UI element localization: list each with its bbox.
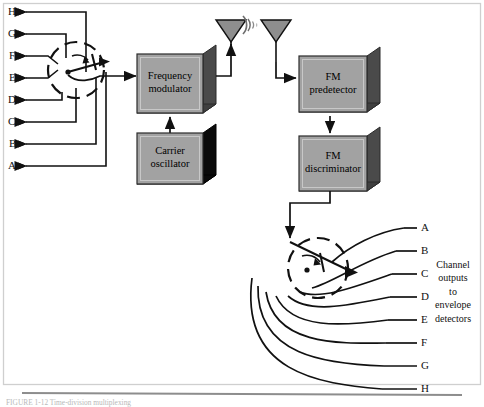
modulator-to-antenna-line: [216, 44, 231, 76]
output-stubs: [382, 228, 417, 389]
channel-note-line-2: outputs: [424, 271, 482, 284]
input-label-g: G: [8, 28, 16, 39]
fm-predetector-line1: FM: [299, 71, 367, 84]
input-label-f: F: [9, 50, 15, 61]
transmit-commutator-switch: [48, 42, 136, 98]
output-label-g: G: [421, 360, 429, 371]
channel-outputs-note: Channel outputs to envelope detectors: [424, 258, 482, 325]
channel-note-line-1: Channel: [424, 258, 482, 271]
caption-rule: [22, 393, 462, 395]
input-label-e: E: [9, 72, 16, 83]
fm-discriminator-line1: FM: [299, 150, 367, 163]
carrier-oscillator-line1: Carrier: [137, 145, 203, 158]
carrier-oscillator-line2: oscillator: [137, 158, 203, 171]
channel-note-line-5: detectors: [424, 312, 482, 325]
diagram-canvas: [0, 0, 484, 407]
channel-note-line-4: envelope: [424, 298, 482, 311]
frequency-modulator-line1: Frequency: [137, 70, 203, 83]
fm-predetector-label: FM predetector: [299, 71, 367, 96]
antenna-to-predetector-line: [276, 62, 296, 78]
input-arrowheads: [18, 9, 27, 170]
input-label-b: B: [9, 138, 17, 149]
fm-discriminator-label: FM discriminator: [299, 150, 367, 175]
receive-antenna: [261, 20, 291, 62]
input-label-c: C: [8, 116, 16, 127]
tdm-block-diagram: H G F E D C B A Frequency modulator Carr…: [0, 0, 484, 407]
figure-caption: FIGURE 1-12 Time-division multiplexing: [6, 399, 306, 407]
output-label-h: H: [421, 383, 429, 394]
discriminator-to-commutator-line: [290, 191, 330, 238]
input-label-d: D: [8, 94, 16, 105]
fm-predetector-line2: predetector: [299, 84, 367, 97]
output-label-b: B: [421, 245, 429, 256]
output-label-f: F: [421, 337, 427, 348]
input-label-a: A: [8, 160, 16, 171]
fm-discriminator-line2: discriminator: [299, 163, 367, 176]
input-label-h: H: [8, 6, 16, 17]
output-fan-curves: [251, 228, 404, 389]
channel-note-line-3: to: [424, 285, 482, 298]
radio-wave-icon: [243, 16, 257, 34]
figure-frame: [4, 4, 481, 385]
carrier-oscillator-label: Carrier oscillator: [137, 145, 203, 170]
frequency-modulator-label: Frequency modulator: [137, 70, 203, 95]
transmit-antenna: [216, 20, 246, 56]
output-label-a: A: [421, 222, 429, 233]
input-feed-lines: [26, 12, 106, 166]
frequency-modulator-line2: modulator: [137, 83, 203, 96]
